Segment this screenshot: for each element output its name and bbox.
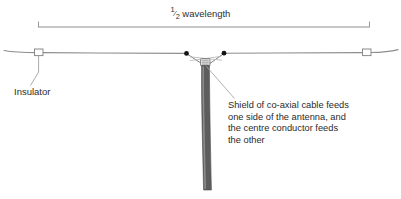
left-insulator — [35, 49, 44, 56]
wire-right-inner — [224, 53, 362, 54]
right-insulator-body — [363, 49, 372, 56]
dimension-fraction: 1⁄2 — [171, 9, 180, 18]
dimension-unit-label: wavelength — [182, 8, 230, 19]
feed-note-line-1: Shield of co-axial cable feeds — [228, 100, 396, 112]
wire-left-inner — [43, 53, 186, 54]
centre-connector — [201, 59, 211, 67]
wire-left-outer — [4, 51, 38, 53]
feed-note-line-4: the other — [228, 135, 396, 147]
antenna-wire-left — [4, 51, 186, 54]
left-insulator-body — [35, 49, 44, 56]
feed-note-line-2: one side of the antenna, and — [228, 112, 396, 124]
antenna-diagram: 1⁄2 wavelength Insulator Shield of co-ax… — [0, 0, 401, 199]
feed-note-text: Shield of co-axial cable feeds one side … — [228, 100, 396, 146]
dimension-label: 1⁄2 wavelength — [0, 7, 401, 21]
left-feed-point-dot — [184, 51, 189, 56]
insulator-label: Insulator — [14, 87, 50, 97]
insulator-leader-line — [31, 56, 39, 86]
wire-right-outer — [371, 50, 398, 53]
feed-note-leader-line — [207, 67, 235, 99]
feed-note-line-3: the centre conductor feeds — [228, 123, 396, 135]
dimension-bracket — [38, 22, 370, 28]
right-feed-point-dot — [222, 51, 227, 56]
right-insulator — [363, 49, 372, 56]
antenna-wire-right — [224, 50, 398, 54]
coaxial-cable — [202, 66, 212, 191]
